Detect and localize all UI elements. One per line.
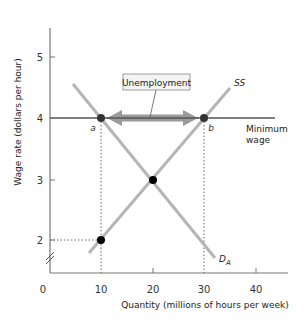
supply-curve-label: SS	[234, 78, 245, 88]
y-tick-label-2: 2	[37, 235, 43, 246]
y-tick-label-3: 3	[37, 175, 43, 186]
x-tick-label-30: 30	[198, 284, 211, 295]
demand-curve-label-sub: A	[225, 259, 231, 267]
unemployment-arrow-icon	[107, 110, 198, 126]
unemployment-label: Unemployment	[122, 78, 192, 88]
supply-curve	[89, 88, 230, 253]
y-tick-label-5: 5	[37, 52, 43, 63]
demand-curve-label-main: D	[219, 254, 226, 264]
unemployment-leader	[150, 90, 156, 117]
y-axis-title: Wage rate (dollars per hour)	[13, 58, 23, 186]
x-tick-label-0: 0	[40, 284, 46, 295]
demand-curve-label: DA	[219, 254, 231, 267]
x-tick-label-40: 40	[250, 284, 263, 295]
point-supply-10-2	[97, 236, 105, 244]
x-tick-label-10: 10	[95, 284, 108, 295]
point-b	[200, 114, 208, 122]
demand-curve	[73, 84, 215, 258]
point-a-label: a	[90, 123, 96, 133]
point-equilibrium	[149, 176, 157, 184]
point-b-label: b	[208, 123, 214, 133]
y-tick-label-4: 4	[37, 113, 43, 124]
x-axis-title: Quantity (millions of hours per week)	[121, 300, 288, 310]
chart: 5 4 3 2 0 10 20 30 40 Quantity (millions…	[0, 0, 305, 328]
minimum-wage-label-line2: wage	[246, 135, 271, 145]
point-a	[97, 114, 105, 122]
x-tick-label-20: 20	[147, 284, 160, 295]
minimum-wage-label-line1: Minimum	[246, 124, 288, 134]
